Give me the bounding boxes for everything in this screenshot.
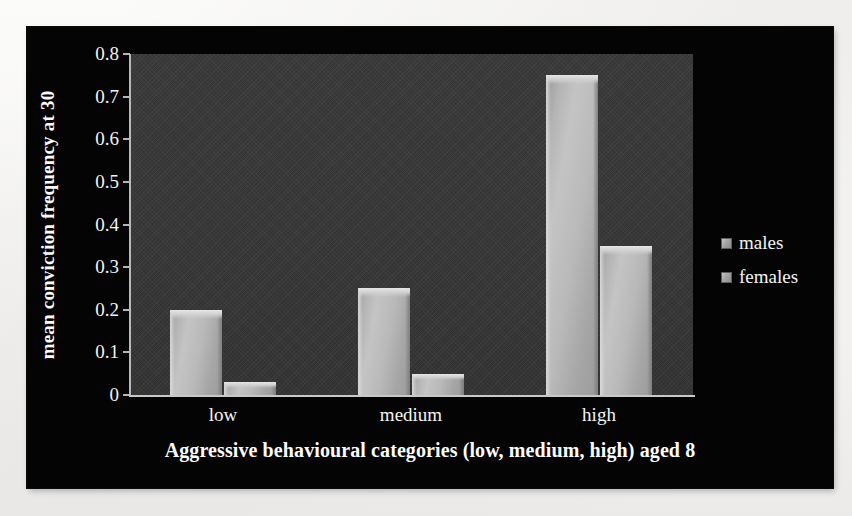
- legend-item-females: females: [721, 263, 833, 297]
- bar-right-shadow: [405, 288, 410, 395]
- plot-area: [129, 54, 693, 395]
- y-tick-label: 0: [63, 385, 119, 404]
- y-tick-label: 0.1: [63, 342, 119, 361]
- x-axis-label: Aggressive behavioural categories (low, …: [27, 439, 833, 462]
- bar-face: [546, 75, 598, 395]
- bar-top-highlight: [358, 288, 410, 297]
- y-tick-label: 0.7: [63, 87, 119, 106]
- legend-label: females: [739, 263, 798, 290]
- y-tick-label: 0.5: [63, 172, 119, 191]
- x-axis-line: [129, 395, 695, 397]
- bar-left-highlight: [546, 75, 551, 395]
- bar-right-shadow: [593, 75, 598, 395]
- bar-left-highlight: [358, 288, 363, 395]
- legend-label: males: [739, 229, 783, 256]
- bar-top-highlight: [600, 246, 652, 255]
- bar-face: [170, 310, 222, 395]
- chart-figure: mean conviction frequency at 30 0.80.70.…: [27, 27, 833, 488]
- x-tick-label-high: high: [505, 404, 693, 425]
- bar-top-highlight: [412, 374, 464, 380]
- x-tick-label-medium: medium: [317, 404, 505, 425]
- y-tick-label: 0.2: [63, 300, 119, 319]
- bar-left-highlight: [600, 246, 605, 395]
- bar-high-females: [600, 246, 652, 395]
- bar-top-highlight: [546, 75, 598, 84]
- y-tick-label: 0.4: [63, 215, 119, 234]
- bar-top-highlight: [170, 310, 222, 319]
- y-axis-line: [129, 54, 131, 397]
- y-tick-label: 0.8: [63, 44, 119, 63]
- bar-right-shadow: [647, 246, 652, 395]
- legend-item-males: males: [721, 229, 833, 263]
- y-axis-label-container: mean conviction frequency at 30: [33, 54, 63, 395]
- bar-right-shadow: [217, 310, 222, 395]
- bar-high-males: [546, 75, 598, 395]
- legend-swatch-males-icon: [721, 238, 732, 249]
- bar-top-highlight: [224, 382, 276, 388]
- bar-medium-males: [358, 288, 410, 395]
- legend-swatch-females-icon: [721, 272, 732, 283]
- chart-legend: malesfemales: [721, 229, 833, 297]
- x-tick-label-low: low: [129, 404, 317, 425]
- y-tick-label: 0.3: [63, 257, 119, 276]
- y-axis-label: mean conviction frequency at 30: [37, 90, 59, 359]
- bar-face: [600, 246, 652, 395]
- y-tick-label: 0.6: [63, 129, 119, 148]
- screenshot-root: mean conviction frequency at 30 0.80.70.…: [0, 0, 852, 516]
- bar-left-highlight: [170, 310, 175, 395]
- bar-face: [358, 288, 410, 395]
- bar-low-males: [170, 310, 222, 395]
- bar-medium-females: [412, 374, 464, 395]
- bar-low-females: [224, 382, 276, 395]
